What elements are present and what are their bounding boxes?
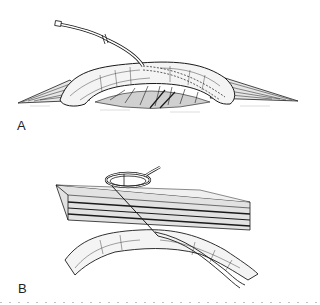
figure-panel-b	[0, 150, 320, 305]
panel-label-a: A	[17, 119, 26, 132]
cutoff-line	[0, 302, 320, 303]
panel-label-b: B	[18, 282, 27, 295]
figure-panel-a: A	[0, 0, 320, 150]
panel-a-illustration	[0, 0, 320, 150]
drainage-tube	[55, 21, 143, 66]
abdominal-wall-layers	[56, 185, 250, 230]
panel-b-illustration	[0, 150, 320, 305]
mesentery	[95, 86, 210, 109]
